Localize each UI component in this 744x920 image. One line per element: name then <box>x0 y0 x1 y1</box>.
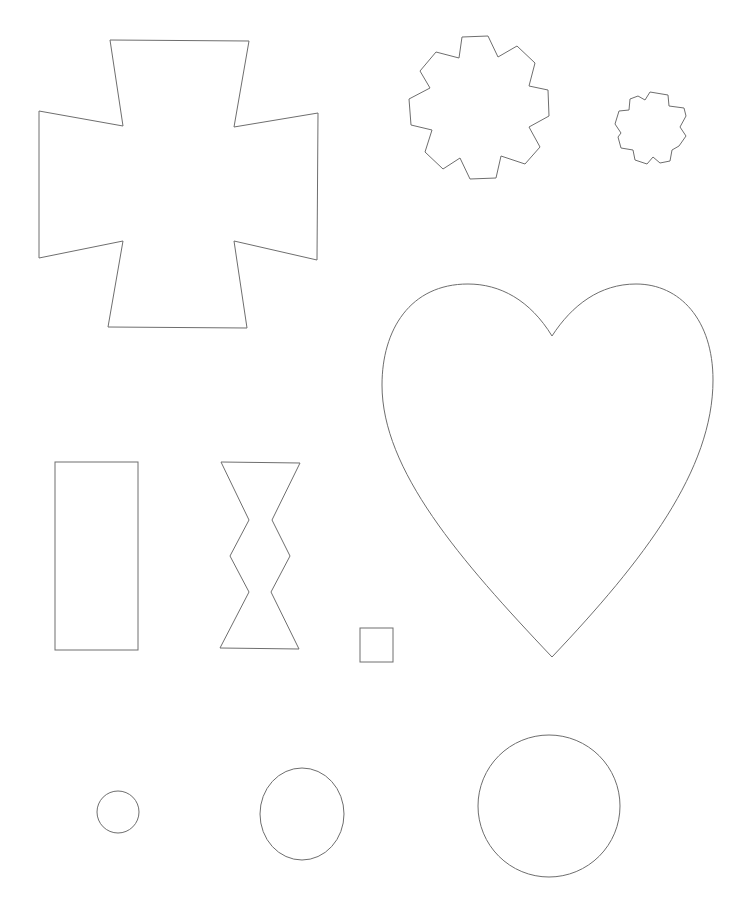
page-background <box>0 0 744 920</box>
shape-sheet <box>0 0 744 920</box>
